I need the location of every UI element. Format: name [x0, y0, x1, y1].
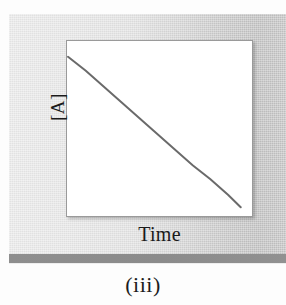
- x-axis-label: Time: [66, 223, 253, 246]
- line-chart-svg: [67, 41, 252, 216]
- figure-panel: [A] Time (iii): [0, 0, 286, 305]
- bottom-divider-rule: [9, 254, 286, 263]
- data-series-line: [68, 57, 241, 208]
- figure-caption: (iii): [0, 272, 286, 298]
- plot-area: [66, 40, 253, 217]
- y-axis-label: [A]: [46, 67, 70, 147]
